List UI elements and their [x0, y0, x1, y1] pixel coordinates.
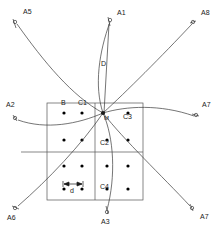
lattice-dot: [80, 164, 83, 167]
label-A7: A7: [202, 101, 211, 108]
label-A2: A2: [6, 101, 15, 108]
label-C4: C4: [100, 183, 109, 190]
trajectory-A7: [103, 107, 194, 116]
label-A6: A6: [7, 214, 16, 221]
lattice-dot: [62, 138, 65, 141]
label-d-dimension: d: [70, 187, 74, 194]
trajectory-A6: [18, 113, 103, 206]
trajectory-A7b: [103, 113, 190, 206]
label-A7-lower: A7: [200, 213, 209, 220]
label-A1: A1: [117, 9, 126, 16]
label-D: D: [101, 60, 106, 67]
lattice-dot: [126, 164, 129, 167]
trajectory-A3: [103, 113, 113, 210]
lattice-dot: [105, 164, 108, 167]
label-center-point-M: M: [104, 115, 109, 121]
trajectory-A8: [103, 24, 192, 113]
trajectory-A5: [17, 24, 103, 113]
lattice-dot: [80, 111, 83, 114]
label-A3: A3: [101, 218, 110, 225]
label-C3: C3: [123, 113, 132, 120]
lattice-dot: [80, 187, 83, 190]
label-C1: C1: [78, 99, 87, 106]
lattice-dot: [62, 187, 65, 190]
label-A8: A8: [201, 9, 210, 16]
dimension-arrowhead-left: [64, 182, 69, 186]
lattice-dot: [62, 164, 65, 167]
lattice-dot: [126, 187, 129, 190]
figure-svg: [0, 0, 223, 236]
label-C2: C2: [100, 139, 109, 146]
lattice-dot: [62, 111, 65, 114]
label-B: B: [61, 99, 66, 106]
dimension-arrowhead-right: [77, 182, 82, 186]
trajectory-A2: [18, 113, 103, 125]
label-A5: A5: [23, 8, 32, 15]
diagram-canvas: A1 A2 A3 A5 A6 A7 A7 A8 B C1 C2 C3 C4 D …: [0, 0, 223, 236]
